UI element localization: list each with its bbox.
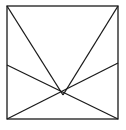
top-left-to-center-line (7, 6, 63, 95)
geometry-diagram (0, 0, 126, 130)
top-right-to-center-line (63, 6, 118, 95)
square-outline (7, 6, 118, 119)
